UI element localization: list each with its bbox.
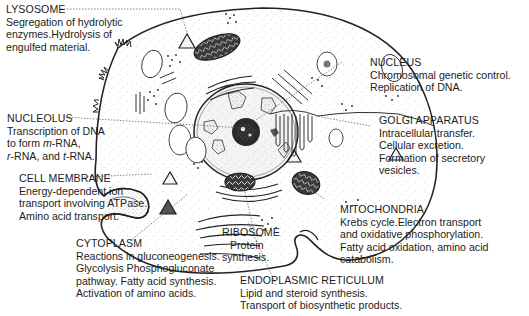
lysosome-title: LYSOSOME [6, 3, 123, 16]
cytoplasm-desc-4: Activation of amino acids. [76, 287, 220, 300]
nucleus-desc-2: Replication of DNA. [370, 81, 511, 94]
label-nucleolus: NUCLEOLUS Transcription of DNA to form m… [7, 112, 105, 162]
vesicle-core [324, 61, 331, 68]
label-mitochondria: MITOCHONDRIA Krebs cycle.Electron transp… [340, 203, 488, 266]
lysosome-desc-2: enzymes.Hydrolysis of [6, 28, 123, 41]
nucleolus-title: NUCLEOLUS [7, 112, 105, 125]
label-cytoplasm: CYTOPLASM Reactions in gluconeogenesis. … [76, 237, 220, 300]
ribosome-title: RIBOSOME [222, 226, 280, 239]
label-lysosome: LYSOSOME Segregation of hydrolytic enzym… [6, 3, 123, 53]
cell-membrane-desc-3: Amino acid transport. [19, 210, 147, 223]
cytoplasm-title: CYTOPLASM [76, 237, 220, 250]
nucleus-title: NUCLEUS [370, 56, 511, 69]
mitochondria-title: MITOCHONDRIA [340, 203, 488, 216]
label-golgi-apparatus: GOLGI APPARATUS Intracellular transfer. … [379, 114, 485, 177]
mitochondria-desc-2: and oxidative phosphorylation. [340, 228, 488, 241]
er-title: ENDOPLASMIC RETICULUM [240, 274, 402, 287]
mitochondria-desc-3: Fatty acid oxidation, amino acid [340, 241, 488, 254]
golgi-desc-2: Cellular excretion. [379, 139, 485, 152]
label-nucleus: NUCLEUS Chromosomal genetic control. Rep… [370, 56, 511, 94]
er-desc-1: Lipid and steroid synthesis. [240, 287, 402, 300]
cell-membrane-desc-1: Energy-dependent ion [19, 185, 147, 198]
er-desc-2: Transport of biosynthetic products. [240, 299, 402, 312]
nucleolus-desc-2: to form m-RNA, [7, 137, 105, 150]
ribosome-desc-2: synthesis. [222, 251, 280, 264]
nucleolus [232, 118, 260, 146]
cell-membrane-title: CELL MEMBRANE [19, 172, 147, 185]
cytoplasm-desc-3: pathway. Fatty acid synthesis. [76, 275, 220, 288]
label-cell-membrane: CELL MEMBRANE Energy-dependent ion trans… [19, 172, 147, 222]
cell-membrane-desc-2: transport involving ATPase. [19, 197, 147, 210]
golgi-desc-3: Formation of secretory [379, 152, 485, 165]
lysosome-desc-3: engulfed material. [6, 41, 123, 54]
nucleolus-m-prefix: m [43, 137, 52, 149]
mitochondria-desc-4: catabolism. [340, 253, 488, 266]
cytoplasm-desc-2: Glycolysis Phosphogluconate [76, 262, 220, 275]
nucleolus-desc-1: Transcription of DNA [7, 125, 105, 138]
label-endoplasmic-reticulum: ENDOPLASMIC RETICULUM Lipid and steroid … [240, 274, 402, 312]
ribosome-desc-1: Protein [222, 239, 280, 252]
golgi-title: GOLGI APPARATUS [379, 114, 485, 127]
cytoplasm-desc-1: Reactions in gluconeogenesis. [76, 250, 220, 263]
nucleolus-t-prefix: t [63, 150, 66, 162]
label-ribosome: RIBOSOME Protein synthesis. [222, 226, 280, 264]
nucleus [194, 84, 298, 180]
nucleus-desc-1: Chromosomal genetic control. [370, 69, 511, 82]
golgi-desc-4: vesicles. [379, 164, 485, 177]
nucleolus-desc-3: r-RNA, and t-RNA. [7, 150, 105, 163]
mitochondria-desc-1: Krebs cycle.Electron transport [340, 216, 488, 229]
golgi-desc-1: Intracellular transfer. [379, 127, 485, 140]
nucleolus-r-prefix: r [7, 150, 11, 162]
lysosome-desc-1: Segregation of hydrolytic [6, 16, 123, 29]
